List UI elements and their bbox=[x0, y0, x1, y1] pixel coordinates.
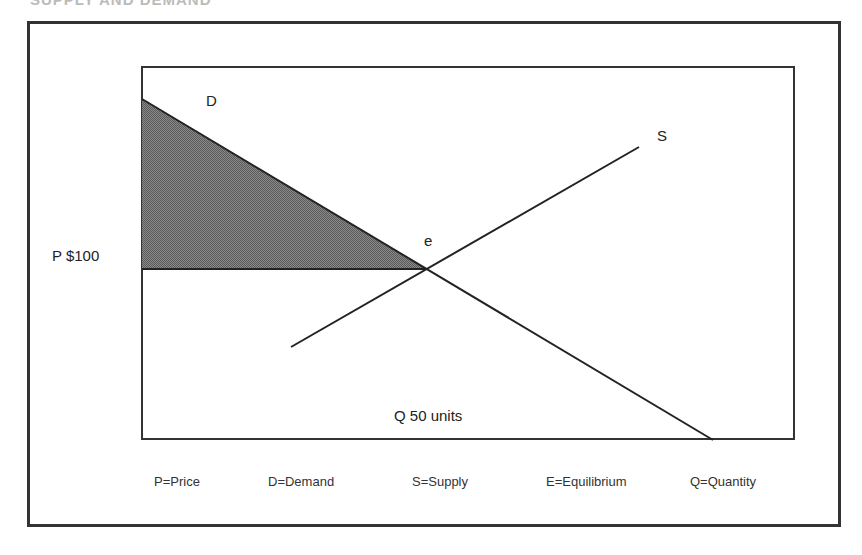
price-label: P $100 bbox=[52, 247, 99, 264]
quantity-label: Q 50 units bbox=[394, 407, 462, 424]
legend-supply: S=Supply bbox=[412, 474, 468, 489]
legend-price: P=Price bbox=[154, 474, 200, 489]
equilibrium-label: e bbox=[424, 232, 432, 249]
legend-demand: D=Demand bbox=[268, 474, 334, 489]
legend-quantity: Q=Quantity bbox=[690, 474, 756, 489]
supply-label: S bbox=[657, 127, 667, 144]
supply-demand-diagram bbox=[0, 0, 862, 555]
legend-equilibrium: E=Equilibrium bbox=[546, 474, 627, 489]
demand-label: D bbox=[206, 92, 217, 109]
